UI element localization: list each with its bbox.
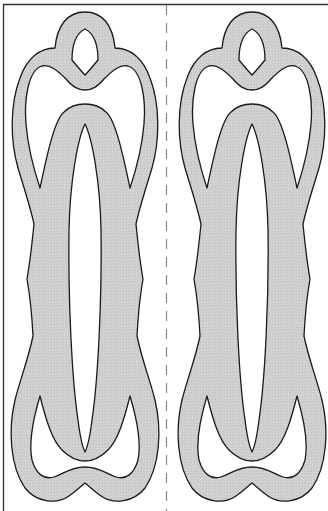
pattern-page: Two identical symmetric looped shapes se…	[0, 0, 328, 511]
left-pattern-piece	[11, 12, 159, 501]
right-pattern-piece	[178, 12, 326, 501]
pattern-canvas	[0, 0, 328, 511]
